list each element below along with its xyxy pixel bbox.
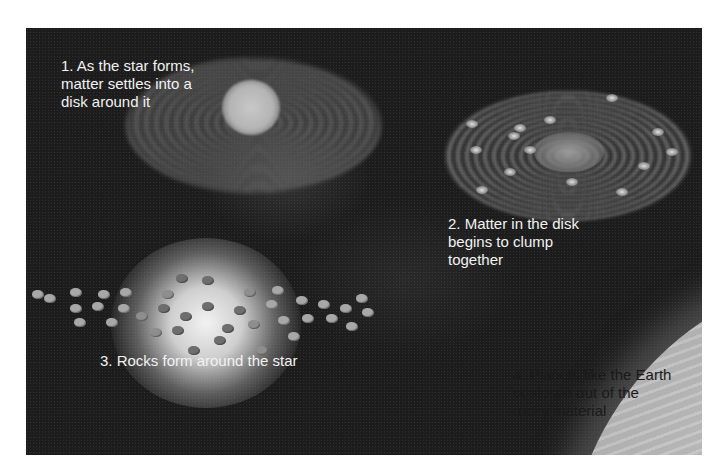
stage-2-clump — [616, 188, 628, 196]
stage-3-rock — [234, 306, 246, 315]
stage-2-caption: 2. Matter in the disk begins to clump to… — [448, 215, 648, 269]
stage-2-clump — [508, 132, 520, 140]
stage-3-rock — [272, 286, 284, 295]
stage-1-caption: 1. As the star forms, matter settles int… — [61, 57, 261, 111]
stage-3-rock — [214, 336, 226, 345]
stage-3-rock — [202, 276, 214, 285]
stage-3-rock — [106, 318, 118, 327]
stage-3-rock — [74, 318, 86, 327]
stage-3-rock — [244, 288, 256, 297]
stage-2-clump — [476, 186, 488, 194]
stage-3-rock — [180, 312, 192, 321]
stage-3-rock — [296, 296, 308, 305]
stage-3-rock — [44, 294, 56, 303]
illustration-frame: 1. As the star forms, matter settles int… — [26, 28, 702, 455]
stage-3-rock — [172, 326, 184, 335]
stage-2-clump — [504, 168, 516, 176]
stage-3-rock — [92, 302, 104, 311]
stage-3-rock — [70, 304, 82, 313]
stage-2-clump — [524, 146, 536, 154]
stage-2-disk-core — [534, 132, 604, 172]
stage-2-clump — [566, 178, 578, 186]
stage-3-star-glow — [111, 238, 301, 408]
stage-3-rock — [362, 308, 374, 317]
stage-3-rock — [136, 312, 148, 321]
stage-2-clump — [638, 162, 650, 170]
stage-3-rock — [202, 302, 214, 311]
stage-3-rock — [346, 322, 358, 331]
stage-3-rock — [266, 300, 278, 309]
stage-3-rock — [176, 274, 188, 283]
stage-3-rock — [32, 290, 44, 299]
stage-3-rock — [318, 300, 330, 309]
stage-2-clump — [466, 120, 478, 128]
stage-3-rock — [158, 304, 170, 313]
stage-2-clump — [470, 146, 482, 154]
stage-3-caption: 3. Rocks form around the star — [100, 352, 340, 370]
stage-3-rock — [150, 328, 162, 337]
stage-3-rock — [248, 320, 260, 329]
stage-3-rock — [118, 304, 130, 313]
stage-2-clump — [652, 128, 664, 136]
stage-3-rock — [98, 290, 110, 299]
stage-3-rock — [222, 324, 234, 333]
stage-4-caption: 4. Planets like the Earth coalesce out o… — [513, 366, 702, 420]
stage-3-rock — [70, 288, 82, 297]
stage-3-rock — [278, 316, 290, 325]
stage-2-clump — [606, 94, 618, 102]
stage-2-clump — [514, 124, 526, 132]
stage-3-rock — [288, 332, 300, 341]
stage-3-rock — [326, 314, 338, 323]
stage-3-rock — [162, 290, 174, 299]
stage-3-rock — [120, 288, 132, 297]
stage-2-clump — [666, 148, 678, 156]
stage-2-clump — [544, 116, 556, 124]
stage-3-rock — [356, 294, 368, 303]
stage-3-rock — [340, 304, 352, 313]
stage-3-rock — [302, 314, 314, 323]
